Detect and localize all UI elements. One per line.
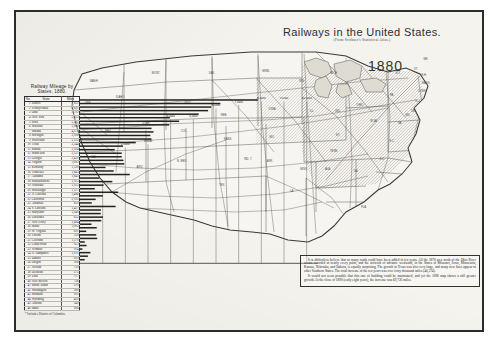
svg-text:MINN.: MINN.	[262, 69, 270, 73]
chart-bar	[80, 131, 154, 133]
cell-miles: 206	[62, 306, 80, 311]
svg-text:VA.: VA.	[398, 121, 402, 125]
chart-bar	[80, 138, 151, 140]
chart-bar	[80, 237, 97, 239]
svg-text:CONN.: CONN.	[418, 89, 427, 93]
svg-text:S.C.: S.C.	[379, 157, 384, 161]
svg-text:WIS.: WIS.	[299, 79, 305, 83]
svg-text:W.VA.: W.VA.	[370, 119, 378, 123]
chart-bar	[80, 106, 211, 108]
chart-bar	[80, 209, 101, 211]
svg-text:VT.: VT.	[414, 67, 418, 71]
chart-bar	[80, 102, 220, 104]
chart-bar	[80, 234, 96, 236]
mileage-bar-chart: 2,0003,0004,0005,0006,0007,0008,0009,000…	[80, 97, 330, 325]
svg-text:MD.: MD.	[406, 113, 411, 117]
svg-text:N.J.: N.J.	[416, 99, 421, 103]
chart-bar	[80, 230, 86, 232]
svg-text:MICH.: MICH.	[330, 71, 338, 75]
chart-tick-label: 9,000	[280, 97, 289, 100]
scanned-page: WASH. ORE. IDAHO MONT. DAK. MINN. WIS. M…	[0, 0, 494, 337]
chart-bar	[80, 120, 179, 122]
chart-bar	[80, 170, 114, 172]
chart-bar	[80, 145, 123, 147]
svg-text:WASH.: WASH.	[90, 79, 99, 83]
map-year-label: 1880	[368, 58, 403, 74]
svg-text:IND.: IND.	[335, 109, 341, 113]
chart-bar	[80, 251, 90, 253]
svg-text:GA.: GA.	[354, 169, 359, 173]
explanatory-note: It is difficult to believe that so many …	[300, 255, 480, 287]
chart-bar	[80, 184, 104, 186]
atlas-sheet: WASH. ORE. IDAHO MONT. DAK. MINN. WIS. M…	[16, 12, 482, 330]
svg-text:MONT.: MONT.	[152, 71, 161, 75]
chart-bar	[80, 195, 103, 197]
cell-rank: 46	[25, 306, 32, 311]
svg-text:FLA.: FLA.	[361, 205, 367, 209]
svg-text:DAK.: DAK.	[209, 71, 216, 75]
chart-bar	[80, 255, 88, 256]
svg-text:OHIO: OHIO	[357, 103, 364, 107]
chart-bar	[80, 159, 123, 161]
chart-bar	[80, 227, 97, 229]
chart-bar	[80, 223, 92, 225]
scan-frame: WASH. ORE. IDAHO MONT. DAK. MINN. WIS. M…	[14, 10, 484, 332]
chart-bar	[80, 241, 85, 243]
svg-text:ME.: ME.	[424, 57, 429, 61]
note-paragraph-1: It is difficult to believe that so many …	[304, 259, 476, 275]
chart-bar	[80, 134, 150, 136]
chart-bar	[80, 248, 82, 250]
chart-bar	[80, 177, 99, 179]
chart-bar	[80, 216, 103, 218]
mileage-table-caption: Railway Mileage by States. 1880.	[24, 84, 80, 95]
chart-bar	[80, 99, 258, 101]
chart-bar	[80, 124, 169, 126]
chart-tick-label: 8,000	[257, 97, 266, 100]
chart-bar	[80, 219, 101, 221]
svg-text:TENN.: TENN.	[330, 149, 338, 153]
table-footnote: * Includes District of Columbia.	[24, 312, 80, 316]
page-title: Railways in the United States.	[262, 26, 462, 38]
chart-bar	[80, 156, 122, 158]
mileage-table-body: 1Illinois7,8512Pennsylvania6,1913Ohio5,7…	[25, 102, 80, 311]
chart-bar	[80, 116, 170, 118]
svg-text:DEL.: DEL.	[411, 109, 417, 113]
page-subtitle: (From Scribner's Statistical Atlas.)	[262, 38, 462, 42]
chart-bar	[80, 205, 116, 207]
chart-bar	[80, 191, 118, 193]
chart-bar	[80, 212, 101, 214]
chart-bar	[80, 180, 112, 182]
chart-bar	[80, 258, 85, 260]
chart-bar	[80, 163, 124, 165]
chart-bar	[80, 202, 92, 204]
chart-bar	[80, 152, 122, 154]
note-paragraph-2: It would not seem possible that this rat…	[304, 275, 476, 283]
chart-bar	[80, 244, 87, 246]
chart-bar	[80, 198, 96, 200]
chart-bar	[80, 148, 115, 150]
table-row: 46Idaho 206	[25, 306, 80, 311]
chart-bar	[80, 141, 136, 143]
chart-bar	[80, 173, 130, 175]
chart-bar	[80, 109, 208, 111]
mileage-table: No. State Miles 1Illinois7,8512Pennsylva…	[24, 96, 80, 311]
svg-text:N.H.: N.H.	[421, 73, 427, 77]
chart-bar	[80, 166, 106, 168]
svg-text:MASS.: MASS.	[422, 81, 431, 85]
chart-bar	[80, 187, 95, 189]
cell-state: Idaho	[31, 306, 61, 311]
svg-text:KY.: KY.	[336, 133, 340, 137]
svg-text:N.C.: N.C.	[389, 139, 395, 143]
mileage-table-panel: Railway Mileage by States. 1880. No. Sta…	[24, 84, 80, 316]
chart-bar	[80, 127, 152, 129]
chart-tick-label: 10,000	[301, 97, 311, 100]
svg-text:PA.: PA.	[390, 93, 394, 97]
chart-bar	[80, 113, 199, 115]
